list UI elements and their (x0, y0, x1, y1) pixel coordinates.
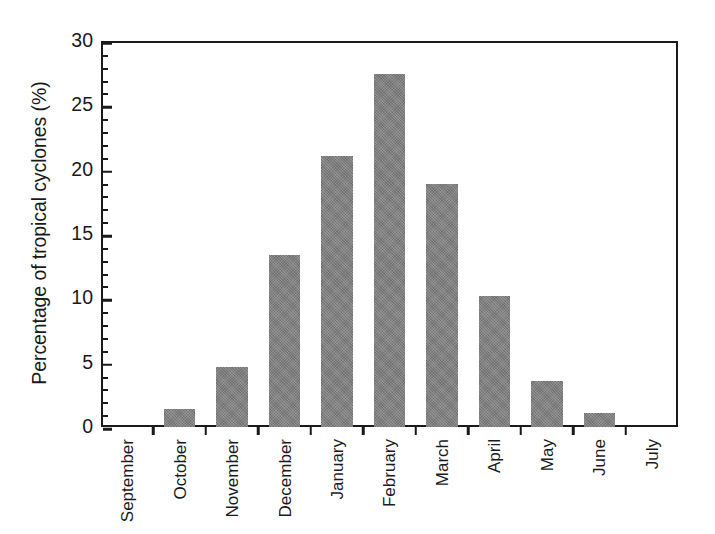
bar (164, 409, 195, 427)
x-axis-category-label: February (381, 439, 398, 507)
x-axis-category-label: March (433, 439, 450, 486)
x-axis-tick (519, 427, 522, 435)
x-axis-category-label: January (329, 439, 346, 499)
x-axis-category-label: May (538, 439, 555, 471)
y-axis-tick-label: 25 (53, 96, 93, 116)
bar-chart-figure: Percentage of tropical cyclones (%) 0510… (0, 0, 715, 534)
y-axis-tick-label: 5 (53, 353, 93, 373)
x-axis-tick (257, 427, 260, 435)
x-axis-tick (414, 427, 417, 435)
bar (426, 184, 457, 427)
y-axis-tick-label: 20 (53, 160, 93, 180)
x-axis-category-label: October (171, 439, 188, 499)
x-axis-category-labels: SeptemberOctoberNovemberDecemberJanuaryF… (101, 437, 678, 534)
x-axis-label-slot: June (573, 437, 625, 534)
x-axis-tick (624, 427, 627, 435)
x-axis-tick (152, 427, 155, 435)
x-axis-category-label: September (119, 439, 136, 522)
x-axis-label-slot: October (153, 437, 205, 534)
y-axis-tick-label: 10 (53, 289, 93, 309)
bar (479, 296, 510, 427)
x-axis-category-label: July (643, 439, 660, 469)
x-axis-tick (310, 427, 313, 435)
x-axis-category-label: November (224, 439, 241, 517)
x-axis-category-label: June (591, 439, 608, 476)
x-axis-label-slot: March (416, 437, 468, 534)
x-axis-ticks (101, 427, 678, 437)
x-axis-label-slot: February (363, 437, 415, 534)
y-axis-tick-label: 0 (53, 417, 93, 437)
bar (374, 74, 405, 427)
bar (584, 413, 615, 427)
x-axis-label-slot: December (258, 437, 310, 534)
x-axis-label-slot: November (206, 437, 258, 534)
x-axis-label-slot: September (101, 437, 153, 534)
y-axis-tick-label: 30 (53, 31, 93, 51)
x-axis-label-slot: January (311, 437, 363, 534)
bar (321, 156, 352, 427)
y-axis-tick-label: 15 (53, 224, 93, 244)
x-axis-label-slot: July (626, 437, 678, 534)
x-axis-category-label: April (486, 439, 503, 473)
x-axis-label-slot: April (468, 437, 520, 534)
bars-group (101, 41, 678, 427)
bar (216, 367, 247, 427)
y-axis-tick-labels: 051015202530 (45, 0, 93, 534)
x-axis-tick (205, 427, 208, 435)
x-axis-label-slot: May (521, 437, 573, 534)
x-axis-tick (572, 427, 575, 435)
x-axis-tick (467, 427, 470, 435)
x-axis-tick (362, 427, 365, 435)
x-axis-category-label: December (276, 439, 293, 517)
bar (531, 381, 562, 427)
bar (269, 255, 300, 427)
